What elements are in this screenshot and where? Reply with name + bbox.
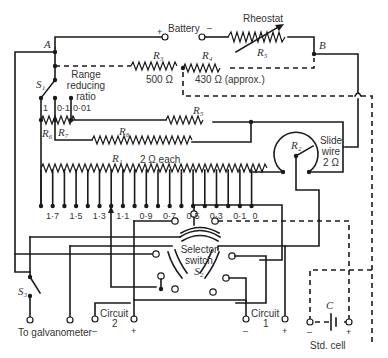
r4-ref: R₄ bbox=[202, 50, 213, 61]
selector-bottom-right-terminal bbox=[210, 289, 216, 295]
dashed-wire-r4-to-b bbox=[230, 58, 314, 68]
battery-minus-terminal bbox=[199, 34, 205, 40]
r1-dial-label: 0·3 bbox=[210, 212, 223, 221]
wire-right-vertical bbox=[345, 99, 358, 147]
r1-tap-points bbox=[39, 170, 254, 208]
galvanometer-terminal-1 bbox=[27, 317, 33, 323]
r1-tap-contact[interactable] bbox=[97, 204, 101, 208]
std-cell-plates bbox=[331, 314, 336, 330]
std-cell-ref: C bbox=[326, 300, 333, 311]
r6-left-dot bbox=[39, 118, 43, 122]
r1-dial-label: 0·5 bbox=[186, 212, 199, 221]
circuit1-minus-terminal bbox=[243, 316, 249, 322]
r3-zigzag bbox=[131, 62, 177, 70]
circuit1-plus-terminal bbox=[282, 316, 288, 322]
wire-circuit2-plus bbox=[134, 300, 246, 303]
node-b-label: B bbox=[319, 40, 326, 51]
wire-left-outer bbox=[15, 52, 55, 272]
slide-wire-label-1: Slide bbox=[316, 136, 346, 146]
r6-r7-mid-dot bbox=[53, 118, 57, 122]
std-cell-plus-terminal bbox=[346, 319, 352, 325]
r1-dial-label: 1·7 bbox=[46, 212, 59, 221]
s3-ref: S₃ bbox=[18, 286, 27, 297]
r1-tap-contact[interactable] bbox=[156, 204, 160, 208]
galvanometer-label: To galvanometer bbox=[18, 328, 92, 338]
battery-plus-sign: + bbox=[157, 28, 162, 37]
r2-ref: R₂ bbox=[291, 140, 302, 151]
s1-range-label: Range bbox=[68, 70, 104, 80]
wire-a-to-battery-plus bbox=[55, 37, 163, 48]
s1-position-01: 0·1 bbox=[57, 104, 70, 113]
r1-value: 2 Ω each bbox=[140, 155, 180, 165]
circuit1-number: 1 bbox=[263, 319, 269, 329]
dashed-wire-std-cell-left bbox=[310, 270, 372, 322]
battery-minus-sign: – bbox=[207, 24, 212, 33]
wire-right-lower-out bbox=[229, 278, 246, 316]
circuit2-number: 2 bbox=[112, 319, 118, 329]
r4-zigzag bbox=[183, 64, 220, 72]
galvanometer-terminal-2 bbox=[67, 317, 73, 323]
r1-tap-contact[interactable] bbox=[121, 204, 125, 208]
potentiometer-circuit-diagram: + Battery – Rheostat R₅ A B R₃ 500 Ω R₄ … bbox=[0, 0, 388, 358]
r1-tap-contact[interactable] bbox=[39, 204, 43, 208]
s1-ratio-label: ratio bbox=[68, 92, 104, 102]
r1-dial-label: 1·3 bbox=[93, 212, 106, 221]
r1-dial-label: 1·1 bbox=[116, 212, 129, 221]
wire-r2-to-selector bbox=[218, 220, 319, 250]
rheostat-label: Rheostat bbox=[243, 14, 283, 24]
r1-tap-contact[interactable] bbox=[132, 204, 136, 208]
r1-tap-contact[interactable] bbox=[86, 204, 90, 208]
r1-tap-contact[interactable] bbox=[144, 204, 148, 208]
battery-label: Battery bbox=[168, 24, 200, 34]
r1-tap-contact[interactable] bbox=[179, 204, 183, 208]
r6-ref: R₆ bbox=[42, 128, 53, 139]
r1-ref: R₁ bbox=[112, 153, 123, 164]
slide-wire-label-2: wire bbox=[316, 147, 346, 157]
rheostat-ref: R₅ bbox=[257, 47, 268, 58]
selector-junction-dot bbox=[159, 287, 163, 291]
r1-tap-contact[interactable] bbox=[51, 204, 55, 208]
selector-ref: S₂ bbox=[190, 266, 208, 277]
r1-dial-label: 0 bbox=[253, 212, 258, 221]
dashed-wire-r3r4-down bbox=[183, 72, 372, 345]
r1-tap-contact[interactable] bbox=[74, 204, 78, 208]
r8-ref: R₈ bbox=[119, 126, 130, 137]
r7-ref: R₇ bbox=[58, 127, 69, 138]
slide-wire-label-3: 2 Ω bbox=[316, 158, 346, 168]
circuit2-minus-terminal bbox=[92, 316, 98, 322]
r2-left-dot bbox=[281, 170, 285, 174]
wire-right-upper-out bbox=[235, 256, 266, 303]
selector-label-1: Selector bbox=[178, 245, 220, 255]
circuit1-plus: + bbox=[282, 327, 287, 336]
r8-zigzag bbox=[92, 136, 192, 144]
std-cell-minus: – bbox=[307, 328, 312, 337]
r1-dial-label: 0·7 bbox=[163, 212, 176, 221]
r5-zigzag bbox=[166, 116, 203, 124]
circuit2-minus: – bbox=[92, 327, 97, 336]
r1-dial-label: 0·9 bbox=[140, 212, 153, 221]
selector-bottom-left-terminal bbox=[172, 286, 178, 292]
std-cell-label: Std. cell bbox=[310, 341, 346, 351]
r5-ref: R₅ bbox=[193, 105, 204, 116]
s3-switch-blade bbox=[30, 277, 40, 293]
r1-dial-label: 0·1 bbox=[233, 212, 246, 221]
r1-zigzag bbox=[41, 164, 267, 172]
s1-position-001: 0·01 bbox=[73, 104, 91, 113]
wire-b-right bbox=[314, 54, 358, 93]
selector-left-upper-terminal bbox=[153, 251, 159, 257]
s1-reducing-label: reducing bbox=[66, 81, 106, 91]
r4-value: 430 Ω (approx.) bbox=[195, 75, 265, 85]
std-cell-plus: + bbox=[346, 328, 351, 337]
std-cell-minus-terminal bbox=[307, 319, 313, 325]
r1-tap-contact[interactable] bbox=[168, 204, 172, 208]
circuit2-plus: + bbox=[131, 327, 136, 336]
s1-ref: S₁ bbox=[36, 79, 45, 90]
circuit1-minus: – bbox=[243, 327, 248, 336]
r1-dial-label: 1·5 bbox=[69, 212, 82, 221]
node-a-label: A bbox=[44, 39, 51, 50]
r3-ref: R₃ bbox=[153, 50, 164, 61]
r3-value: 500 Ω bbox=[146, 75, 173, 85]
r1-tap-contact[interactable] bbox=[62, 204, 66, 208]
s1-position-1: 1 bbox=[43, 104, 48, 113]
wire-rheostat-to-b bbox=[288, 37, 314, 54]
